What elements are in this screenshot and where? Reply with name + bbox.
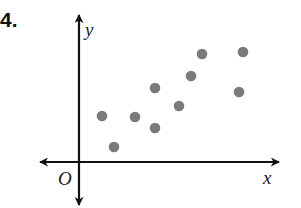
data-point xyxy=(238,47,249,58)
data-point xyxy=(150,83,161,94)
data-point xyxy=(130,112,141,123)
y-axis-label: y xyxy=(83,19,94,40)
data-point xyxy=(186,71,197,82)
data-point xyxy=(109,142,120,153)
origin-label: O xyxy=(58,168,72,189)
data-point xyxy=(150,123,161,134)
data-point xyxy=(234,87,245,98)
data-points xyxy=(97,47,249,153)
x-axis-label: x xyxy=(262,167,272,188)
data-point xyxy=(97,111,108,122)
scatter-plot: y x O xyxy=(0,0,301,208)
data-point xyxy=(174,101,185,112)
data-point xyxy=(197,49,208,60)
